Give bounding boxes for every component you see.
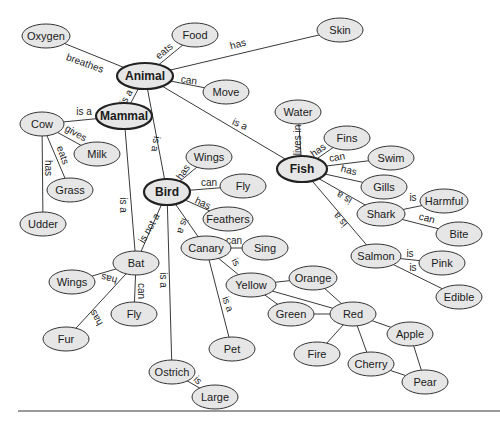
edge-label: eats <box>55 144 72 166</box>
node-gills[interactable]: Gills <box>361 175 407 199</box>
node-label: Red <box>343 308 363 320</box>
node-label: Orange <box>295 272 332 284</box>
edge-label: has <box>43 160 54 176</box>
edge-label: is a <box>175 217 191 236</box>
node-label: Pear <box>413 376 437 388</box>
node-label: Wings <box>57 276 88 288</box>
node-label: Apple <box>396 328 424 340</box>
edge-label: can <box>136 283 147 299</box>
node-label: Cherry <box>354 358 388 370</box>
node-label: Canary <box>188 242 224 254</box>
edge-label: has <box>229 37 247 52</box>
edge-mammal-bat <box>124 116 136 263</box>
node-label: Harmful <box>425 195 464 207</box>
edge-label: has <box>193 195 212 212</box>
node-label: Gills <box>373 181 395 193</box>
edge-animal-bird <box>145 76 167 192</box>
node-apple[interactable]: Apple <box>387 322 433 346</box>
edge-label: is <box>409 262 416 273</box>
node-edible[interactable]: Edible <box>436 285 482 309</box>
node-label: Shark <box>367 208 396 220</box>
node-label: Salmon <box>357 250 394 262</box>
node-swim[interactable]: Swim <box>368 146 414 170</box>
node-label: Fly <box>127 308 142 320</box>
node-green[interactable]: Green <box>268 302 314 326</box>
node-label: Pink <box>431 257 453 269</box>
node-label: Large <box>201 391 229 403</box>
node-label: Oxygen <box>27 30 65 42</box>
node-large[interactable]: Large <box>192 385 238 409</box>
edge-label: can <box>201 177 217 188</box>
node-label: Fish <box>290 162 315 176</box>
node-bite[interactable]: Bite <box>436 222 482 246</box>
edge-label: is <box>409 192 416 203</box>
node-pink[interactable]: Pink <box>419 251 465 275</box>
node-move[interactable]: Move <box>203 80 249 104</box>
node-canary[interactable]: Canary <box>181 236 231 260</box>
node-fire[interactable]: Fire <box>294 342 340 366</box>
node-food[interactable]: Food <box>172 23 218 47</box>
node-label: Water <box>284 106 313 118</box>
node-fins[interactable]: Fins <box>324 126 370 150</box>
node-wings_bat[interactable]: Wings <box>49 270 95 294</box>
node-label: Animal <box>125 69 165 83</box>
node-label: Fly <box>236 180 251 192</box>
edge-label: has <box>100 272 118 287</box>
edge-label: is a <box>331 210 350 229</box>
node-label: Move <box>213 86 240 98</box>
node-label: Cow <box>31 118 53 130</box>
node-animal[interactable]: Animal <box>117 63 173 89</box>
node-cow[interactable]: Cow <box>20 112 64 136</box>
node-pear[interactable]: Pear <box>402 370 448 394</box>
node-label: Yellow <box>235 279 266 291</box>
edge-label: is not a <box>136 211 162 245</box>
node-fish[interactable]: Fish <box>277 156 327 182</box>
node-label: Ostrich <box>155 366 190 378</box>
node-label: Bat <box>128 257 145 269</box>
node-ostrich[interactable]: Ostrich <box>149 360 195 384</box>
edge-label: breathes <box>65 51 105 75</box>
node-yellow[interactable]: Yellow <box>226 273 276 297</box>
edge-label: has <box>340 163 358 178</box>
node-wings_bird[interactable]: Wings <box>186 145 232 169</box>
node-fly_bird[interactable]: Fly <box>220 174 266 198</box>
node-feathers[interactable]: Feathers <box>203 207 253 231</box>
edge-label: has <box>174 162 192 182</box>
node-label: Fins <box>337 132 358 144</box>
node-label: Bite <box>450 228 469 240</box>
edge-label: is a <box>149 135 163 153</box>
node-label: Udder <box>28 218 58 230</box>
node-fur[interactable]: Fur <box>43 327 89 351</box>
node-fly_bat[interactable]: Fly <box>111 302 157 326</box>
edge-label: has <box>87 308 105 327</box>
node-red[interactable]: Red <box>330 302 376 326</box>
node-shark[interactable]: Shark <box>357 202 405 226</box>
node-harmful[interactable]: Harmful <box>420 189 468 213</box>
node-milk[interactable]: Milk <box>74 142 120 166</box>
node-bat[interactable]: Bat <box>113 251 159 275</box>
node-label: Feathers <box>206 213 250 225</box>
node-skin[interactable]: Skin <box>317 18 363 42</box>
node-label: Grass <box>55 184 85 196</box>
node-udder[interactable]: Udder <box>20 212 66 236</box>
node-grass[interactable]: Grass <box>47 178 93 202</box>
edge-label: is a <box>76 106 92 117</box>
node-water[interactable]: Water <box>275 100 321 124</box>
edge-label: is a <box>158 272 169 288</box>
node-sing[interactable]: Sing <box>242 236 288 260</box>
node-orange[interactable]: Orange <box>289 266 337 290</box>
node-label: Fur <box>58 333 75 345</box>
edge-label: can <box>418 211 436 226</box>
node-pet[interactable]: Pet <box>209 337 255 361</box>
edge-label: is a <box>231 116 250 133</box>
node-label: Swim <box>378 152 405 164</box>
nodes-layer: OxygenFoodSkinAnimalMoveMammalCowMilkGra… <box>20 18 482 409</box>
edge-label: can <box>180 73 197 86</box>
edge-label: is <box>406 248 413 259</box>
node-salmon[interactable]: Salmon <box>351 244 401 268</box>
node-label: Wings <box>194 151 225 163</box>
node-oxygen[interactable]: Oxygen <box>22 24 70 48</box>
node-bird[interactable]: Bird <box>144 179 190 205</box>
node-mammal[interactable]: Mammal <box>96 103 152 129</box>
node-cherry[interactable]: Cherry <box>348 352 394 376</box>
